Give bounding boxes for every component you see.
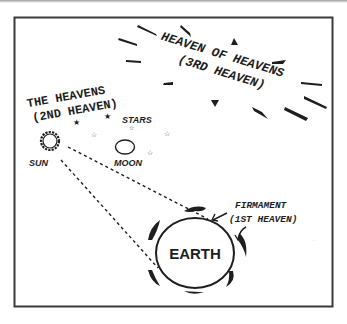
- stars-label: STARS: [122, 115, 152, 125]
- earth-label: EARTH: [169, 245, 221, 262]
- scan-artifact: ··: [312, 237, 317, 245]
- moon-icon: [116, 140, 135, 154]
- sun-label: SUN: [29, 158, 49, 168]
- star-icon: ★: [104, 112, 111, 121]
- star-outline-icon: ☆: [147, 149, 153, 157]
- three-heavens-diagram: HEAVEN OF HEAVENS (3RD HEAVEN) THE HEAVE…: [0, 0, 347, 324]
- sun-icon: [41, 132, 59, 150]
- moon-label: MOON: [114, 158, 142, 168]
- first-heaven-label-line1: FIRMAMENT: [235, 200, 288, 211]
- star-icon: ★: [73, 118, 80, 127]
- star-outline-icon: ☆: [129, 125, 134, 131]
- star-outline-icon: ☆: [164, 130, 170, 138]
- first-heaven-label-line2: (1ST HEAVEN): [229, 214, 297, 225]
- star-outline-icon: ☆: [91, 131, 97, 139]
